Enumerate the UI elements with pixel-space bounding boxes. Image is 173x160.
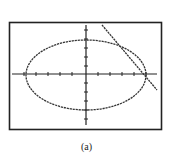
figure: (a) <box>0 0 173 160</box>
figure-caption: (a) <box>0 141 173 152</box>
calculator-graph <box>0 0 173 140</box>
